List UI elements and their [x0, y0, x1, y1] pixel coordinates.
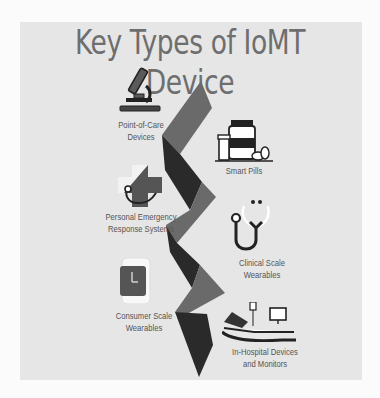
label-in-hospital: In-Hospital Devices and Monitors — [227, 346, 304, 370]
smartwatch-icon — [118, 258, 154, 304]
stethoscope-icon — [228, 196, 274, 256]
label-clinical-wearables: Clinical Scale Wearables — [228, 257, 296, 281]
label-pers: Personal Emergency Response Systems — [94, 211, 188, 235]
label-smart-pills: Smart Pills — [219, 165, 270, 177]
zigzag-ribbon — [0, 0, 380, 398]
label-consumer-wearables: Consumer Scale Wearables — [110, 310, 178, 334]
pill-bottle-icon — [215, 118, 273, 164]
hospital-bed-monitor-icon — [222, 302, 298, 342]
microscope-icon — [116, 64, 166, 114]
medical-cross-stethoscope-icon — [114, 163, 166, 211]
zigzag-segment-6 — [175, 312, 213, 377]
label-point-of-care: Point-of-Care Devices — [110, 119, 173, 143]
